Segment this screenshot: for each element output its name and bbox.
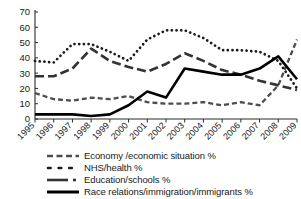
dotted-swatch-icon [46,162,80,174]
svg-text:1997: 1997 [53,120,74,141]
long-dash-swatch-icon [46,174,80,186]
chart-svg: 010203040506070 199519961997199819992000… [0,0,301,150]
x-axis [35,119,297,123]
svg-text:1998: 1998 [71,120,92,141]
svg-text:20: 20 [19,83,30,94]
legend-label-nhs: NHS/health % [84,162,142,174]
svg-text:2001: 2001 [127,120,148,141]
legend-item-economy: Economy /economic situation % [46,150,298,162]
svg-text:2003: 2003 [165,120,186,141]
legend-item-race-relations: Race relations/immigration/immigrants % [46,186,298,198]
svg-text:2005: 2005 [202,120,223,141]
legend-label-education: Education/schools % [84,174,170,186]
svg-text:50: 50 [19,37,30,48]
svg-text:2000: 2000 [109,120,130,141]
svg-text:1999: 1999 [90,120,111,141]
svg-text:70: 70 [19,6,30,17]
svg-text:2004: 2004 [184,120,205,141]
chart-legend: Economy /economic situation % NHS/health… [46,150,298,199]
svg-text:2009: 2009 [277,120,298,141]
line-chart: 010203040506070 199519961997199819992000… [0,0,301,199]
svg-text:10: 10 [19,98,30,109]
svg-text:1995: 1995 [15,120,36,141]
svg-text:1996: 1996 [34,120,55,141]
svg-text:2007: 2007 [240,120,261,141]
y-axis: 010203040506070 [19,6,38,124]
short-dash-swatch-icon [46,150,80,162]
svg-text:2008: 2008 [258,120,279,141]
series-lines [35,30,297,116]
svg-text:2006: 2006 [221,120,242,141]
plot-area: 010203040506070 199519961997199819992000… [0,0,301,150]
legend-label-economy: Economy /economic situation % [84,150,216,162]
svg-text:40: 40 [19,52,30,63]
svg-text:30: 30 [19,68,30,79]
legend-item-education: Education/schools % [46,174,298,186]
legend-item-nhs: NHS/health % [46,162,298,174]
svg-text:2002: 2002 [146,120,167,141]
x-tick-labels: 1995199619971998199920002001200220032004… [15,120,298,141]
legend-label-race-relations: Race relations/immigration/immigrants % [84,186,253,198]
svg-text:60: 60 [19,22,30,33]
solid-swatch-icon [46,186,80,198]
